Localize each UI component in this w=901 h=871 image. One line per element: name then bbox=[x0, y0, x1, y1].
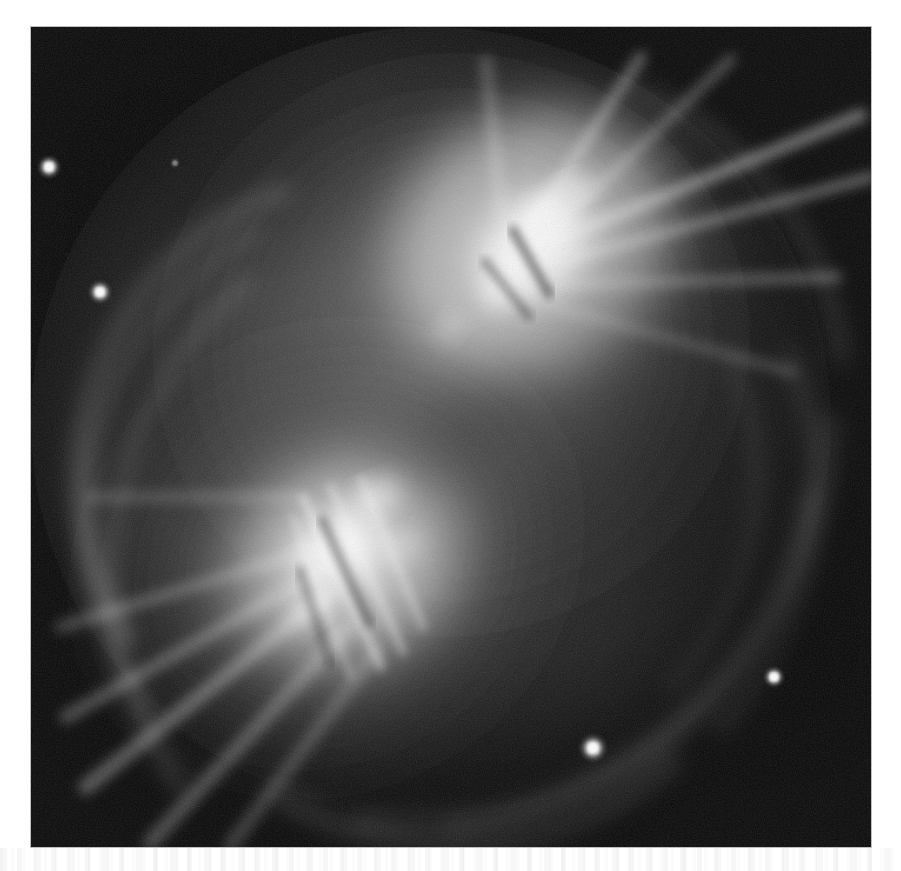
star-field bbox=[36, 154, 786, 764]
star-4-core bbox=[588, 743, 598, 753]
star-3-core bbox=[770, 673, 777, 680]
astronomical-plate bbox=[31, 27, 871, 847]
star-2-core bbox=[96, 288, 104, 296]
scan-texture-band bbox=[0, 848, 901, 871]
page-root bbox=[0, 0, 901, 871]
star-5 bbox=[169, 157, 180, 168]
star-1-core bbox=[45, 163, 53, 171]
point-sources-layer bbox=[31, 27, 871, 847]
